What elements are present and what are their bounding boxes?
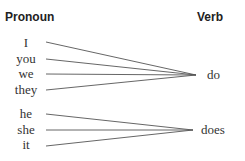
line-they-do — [46, 75, 196, 90]
line-it-does — [46, 130, 193, 146]
connector-lines — [0, 0, 245, 161]
line-we-do — [46, 74, 196, 75]
line-i-do — [46, 42, 196, 75]
line-you-do — [46, 59, 196, 75]
line-he-does — [46, 114, 193, 130]
